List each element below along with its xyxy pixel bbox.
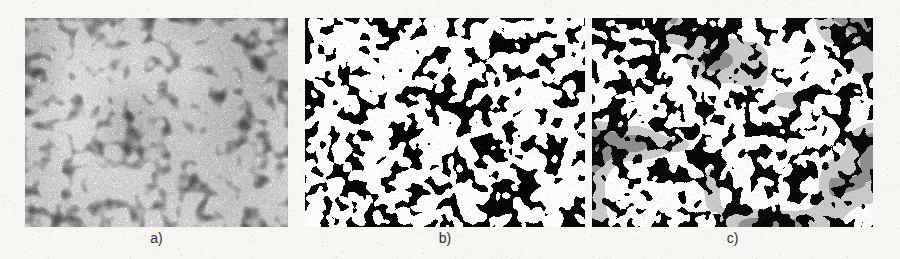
panel-b-label: b)	[305, 231, 585, 245]
panel-b-image	[305, 18, 585, 227]
figure-three-panel-segmentation: a)b)c)	[0, 0, 900, 259]
panel-c-image	[592, 18, 873, 227]
panel-c-label: c)	[592, 231, 873, 245]
panel-a-image	[25, 18, 288, 227]
panel-a-label: a)	[25, 231, 288, 245]
